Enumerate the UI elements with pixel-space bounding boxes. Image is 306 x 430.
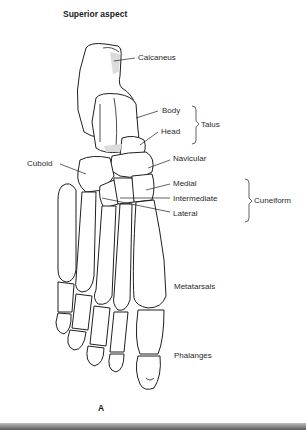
label-lateral: Lateral xyxy=(173,210,197,218)
label-intermediate: Intermediate xyxy=(173,195,217,203)
label-medial: Medial xyxy=(173,180,197,188)
talus-bone xyxy=(92,94,145,160)
leader-head xyxy=(140,132,158,145)
label-navicular: Navicular xyxy=(173,155,206,163)
label-head: Head xyxy=(161,128,180,136)
cuneiform-bracket xyxy=(245,179,252,222)
talus-bracket xyxy=(192,106,199,144)
label-cuneiform: Cuneiform xyxy=(254,197,291,205)
navicular-bone xyxy=(110,152,153,177)
label-cuboid: Cuboid xyxy=(27,160,52,168)
label-phalanges: Phalanges xyxy=(174,352,212,360)
label-calcaneus: Calcaneus xyxy=(138,54,176,62)
panel-letter: A xyxy=(98,403,104,413)
label-metatarsals: Metatarsals xyxy=(174,283,215,291)
foot-skeleton-illustration xyxy=(0,0,306,430)
bottom-divider xyxy=(0,423,306,430)
label-body: Body xyxy=(162,107,180,115)
leader-body xyxy=(136,111,158,118)
label-talus: Talus xyxy=(201,121,220,129)
